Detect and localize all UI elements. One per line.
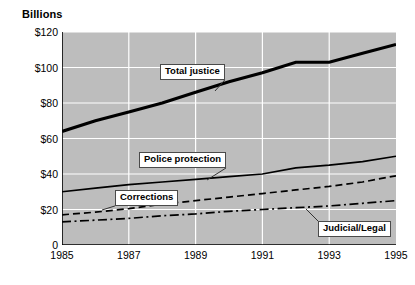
x-axis-tick: 1995 (384, 249, 407, 261)
data-series-lines (62, 44, 396, 222)
chart-figure: Billions 0$20$40$60$80$100$120 198519871… (0, 0, 415, 285)
x-axis-tick: 1987 (117, 249, 140, 261)
x-axis-tick: 1985 (50, 249, 73, 261)
callout-judicial-legal: Judicial/Legal (318, 221, 391, 237)
gridlines (62, 32, 396, 245)
y-axis-tick: $120 (35, 26, 58, 38)
x-axis-tick: 1989 (184, 249, 207, 261)
y-axis-tick: $20 (40, 204, 58, 216)
y-axis-tick: $80 (40, 97, 58, 109)
callout-police-protection: Police protection (139, 152, 226, 168)
y-axis-tick: $40 (40, 168, 58, 180)
plot-area (62, 32, 396, 245)
x-axis-tick: 1991 (251, 249, 274, 261)
callout-corrections: Corrections (115, 190, 178, 206)
y-axis-tick: $100 (35, 62, 58, 74)
x-axis-tick-labels: 198519871989199119931995 (62, 249, 396, 269)
plot-svg (62, 32, 396, 245)
y-axis-tick: $60 (40, 133, 58, 145)
x-axis-tick: 1993 (318, 249, 341, 261)
y-axis-tick-labels: 0$20$40$60$80$100$120 (0, 32, 58, 245)
callout-total-justice: Total justice (160, 64, 225, 80)
series-line-total-justice (62, 44, 396, 131)
y-axis-title: Billions (22, 8, 63, 20)
series-line-judicial-legal (62, 201, 396, 222)
